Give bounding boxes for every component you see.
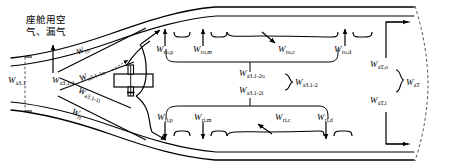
outer-flow-arrows bbox=[165, 29, 345, 46]
label-inner-p-sub: ri,p bbox=[165, 117, 173, 123]
label-inner-m-sub: ri,m bbox=[202, 117, 212, 123]
cabin-bleed-caption-line1: 座舱用空 bbox=[26, 14, 66, 26]
label-turbine-inner-sub: aT,i bbox=[378, 100, 387, 106]
label-stage2-inner-base: W bbox=[239, 85, 247, 95]
label-stage2-total: Wa3.1-2 bbox=[295, 78, 318, 87]
duct-inner-wall-top bbox=[11, 16, 414, 66]
stage2-inner-rail bbox=[166, 98, 328, 119]
label-inner-p-base: W bbox=[157, 112, 165, 122]
label-turbine-outer: WaT,o bbox=[370, 60, 388, 69]
turbine-brace bbox=[396, 70, 404, 92]
label-inner-m: Wri,m bbox=[194, 113, 211, 122]
outer-c-arrow bbox=[262, 32, 275, 43]
label-stage1-base: W bbox=[52, 75, 60, 85]
label-stage2-outer-sub: a3.1-2o bbox=[247, 73, 265, 79]
label-inner-c: Wri,c bbox=[275, 113, 290, 122]
label-stage2-outer: Wa3.1-2o bbox=[239, 69, 265, 78]
turbine-inner-duct bbox=[386, 112, 410, 144]
valve-symbol bbox=[114, 65, 153, 96]
label-stage1: Wa3.1-1 bbox=[52, 76, 75, 85]
label-inner-d: Wri,d bbox=[317, 113, 333, 122]
label-outer-p-base: W bbox=[156, 44, 164, 54]
label-inlet-total-base: W bbox=[8, 75, 16, 85]
label-outer-d: Wro,d bbox=[334, 45, 351, 54]
label-outer-c: Wro,c bbox=[278, 45, 295, 54]
label-inner-c-sub: ri,c bbox=[283, 117, 291, 123]
label-stage2-inner: Wa3.1-2i bbox=[239, 86, 263, 95]
label-outer-m-base: W bbox=[193, 44, 201, 54]
label-outer-c-base: W bbox=[278, 44, 286, 54]
label-outer-d-sub: ro,d bbox=[342, 49, 352, 55]
label-outer-c-sub: ro,c bbox=[286, 49, 295, 55]
cabin-bleed-caption: 座舱用空 气、漏气 bbox=[26, 14, 66, 37]
label-turbine-outer-base: W bbox=[370, 59, 378, 69]
inner-brace-group bbox=[174, 131, 352, 136]
inner-flow-arrows bbox=[165, 122, 326, 139]
stage2-brace bbox=[285, 74, 293, 90]
cabin-bleed-caption-line2: 气、漏气 bbox=[26, 26, 66, 38]
label-outer-m: Wro,m bbox=[193, 45, 212, 54]
label-outer-p-sub: ro,p bbox=[164, 49, 174, 55]
label-turbine-inner-base: W bbox=[370, 95, 378, 105]
label-turbine-total-base: W bbox=[406, 77, 414, 87]
label-outer-p: Wro,p bbox=[156, 45, 173, 54]
left-station-boundary bbox=[25, 57, 32, 111]
label-stage2-total-sub: a3.1-2 bbox=[303, 82, 318, 88]
label-inner-c-base: W bbox=[275, 112, 283, 122]
label-turbine-total-sub: aT bbox=[414, 82, 420, 88]
label-inlet-total: Wa3.1 bbox=[8, 76, 26, 85]
label-turbine-total: WaT bbox=[406, 78, 420, 87]
turbine-outer-duct bbox=[386, 22, 410, 58]
label-stage1-sub: a3.1-1 bbox=[60, 80, 75, 86]
label-inner-m-base: W bbox=[194, 112, 202, 122]
label-inlet-total-sub: a3.1 bbox=[16, 80, 26, 86]
outer-brace-group bbox=[174, 32, 372, 37]
label-outer-m-sub: ro,m bbox=[201, 49, 212, 55]
label-stage2-total-base: W bbox=[295, 77, 303, 87]
label-stage2-inner-sub: a3.1-2i bbox=[247, 90, 264, 96]
label-inner-d-base: W bbox=[317, 112, 325, 122]
branch-line-inner bbox=[58, 96, 146, 140]
label-turbine-outer-sub: aT,o bbox=[378, 64, 388, 70]
label-turbine-inner: WaT,i bbox=[370, 96, 387, 105]
label-outer-d-base: W bbox=[334, 44, 342, 54]
air-system-flow-diagram: 座舱用空 气、漏气 Wa3.1 Wa3.1-1 Wa3.1-1o Wa3.1-1… bbox=[0, 0, 452, 168]
label-inner-p: Wri,p bbox=[157, 113, 173, 122]
label-stage2-outer-base: W bbox=[239, 68, 247, 78]
label-inner-d-sub: ri,d bbox=[325, 117, 333, 123]
